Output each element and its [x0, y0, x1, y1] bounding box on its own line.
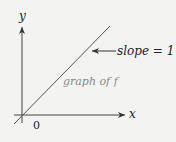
graph-figure: y x 0 graph of f slope = 1: [0, 0, 176, 142]
graph-label: graph of f: [63, 76, 118, 87]
origin-label: 0: [33, 120, 40, 131]
slope-annotation: slope = 1: [117, 45, 174, 57]
graph-drawing: [0, 0, 176, 142]
y-axis-label: y: [19, 10, 26, 22]
slope-annotation-text: slope = 1: [117, 44, 174, 58]
x-axis-label: x: [129, 108, 136, 120]
